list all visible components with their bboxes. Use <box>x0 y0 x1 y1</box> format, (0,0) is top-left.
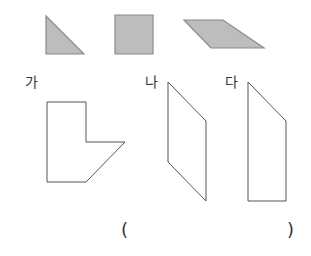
figure-ga-label: 가 <box>25 75 38 89</box>
answer-close-paren: ) <box>287 221 294 239</box>
shapes-svg <box>0 0 311 256</box>
figure-da-outline <box>248 82 286 201</box>
diagram-canvas: 가 나 다 ( ) <box>0 0 311 256</box>
parallelogram-piece <box>184 20 264 48</box>
answer-open-paren: ( <box>121 221 128 239</box>
figure-na-outline <box>168 82 206 201</box>
right-triangle-piece <box>46 16 84 54</box>
square-piece <box>115 15 153 54</box>
figure-na-label: 나 <box>145 75 158 89</box>
figure-ga-outline <box>47 102 125 182</box>
figure-da-label: 다 <box>225 75 238 89</box>
